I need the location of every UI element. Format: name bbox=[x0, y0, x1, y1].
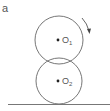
two-circles-diagram: a O1 O2 bbox=[0, 0, 110, 111]
bottom-circle: O2 bbox=[36, 58, 82, 104]
center-dot-o1 bbox=[57, 39, 60, 42]
label-o2: O2 bbox=[62, 76, 73, 87]
clockwise-arrow-icon bbox=[82, 18, 91, 34]
panel-label: a bbox=[2, 2, 9, 14]
label-o1: O1 bbox=[62, 35, 73, 46]
top-circle: O1 bbox=[35, 16, 83, 64]
center-dot-o2 bbox=[57, 80, 60, 83]
